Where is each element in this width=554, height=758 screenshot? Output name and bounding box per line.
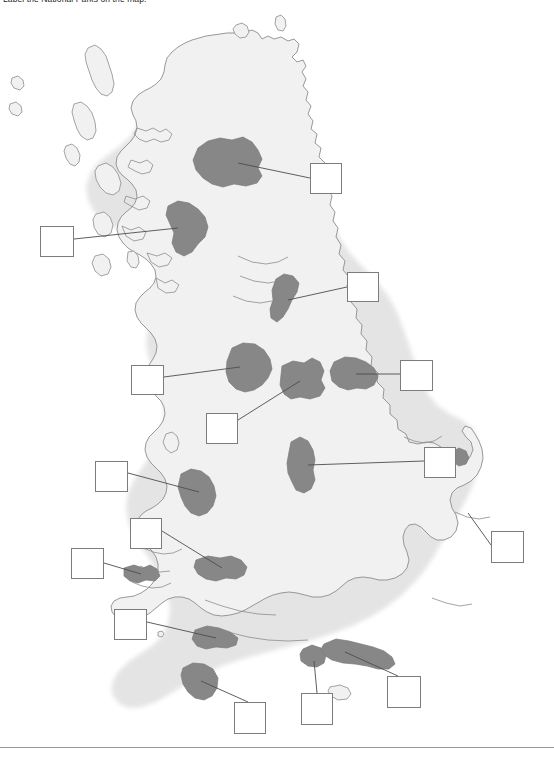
park-region-south-downs [321, 639, 395, 669]
answer-box-11[interactable] [71, 548, 104, 579]
uk-national-parks-map [0, 0, 554, 748]
answer-box-4[interactable] [131, 365, 164, 395]
shetland-islands [275, 15, 286, 31]
answer-box-1[interactable] [310, 163, 342, 194]
answer-box-6[interactable] [206, 413, 238, 444]
answer-box-14[interactable] [234, 702, 266, 734]
answer-box-7[interactable] [424, 447, 456, 478]
worksheet-page: Label the National Parks on the map. [0, 0, 554, 758]
footer-divider [0, 747, 554, 748]
answer-box-12[interactable] [114, 609, 147, 640]
islay-island [92, 254, 111, 276]
answer-box-5[interactable] [400, 360, 433, 391]
outer-hebrides-north [85, 45, 114, 96]
outer-hebrides-south [72, 102, 96, 140]
great-britain-mainland [111, 30, 483, 621]
answer-box-9[interactable] [130, 518, 162, 549]
park-region-dartmoor [181, 663, 218, 700]
answer-box-8[interactable] [95, 461, 128, 492]
answer-box-10[interactable] [491, 531, 524, 563]
park-region-yorkshire-dales [280, 358, 325, 399]
small-isle-b [9, 102, 22, 116]
answer-box-3[interactable] [347, 272, 379, 302]
outer-hebrides-barra [64, 144, 80, 166]
answer-box-2[interactable] [40, 226, 74, 257]
answer-box-13[interactable] [301, 693, 333, 725]
small-isle-a [11, 76, 24, 90]
answer-box-15[interactable] [387, 676, 421, 708]
park-region-pembrokeshire [124, 565, 160, 583]
map-container [0, 0, 554, 748]
